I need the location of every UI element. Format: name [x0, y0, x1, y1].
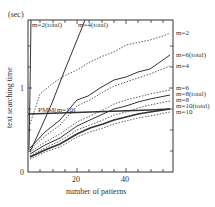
series-m4-total: [30, 20, 85, 152]
y-tick-1: 1: [20, 84, 24, 93]
x-axis-label: number of patterns: [66, 187, 126, 196]
series-m10: [30, 112, 170, 159]
label-pmm: PMM(m=10): [38, 106, 76, 114]
label-m4-total: m=4(total): [78, 21, 109, 29]
series-m2-total: [29, 20, 31, 150]
x-tick-40: 40: [121, 175, 129, 184]
plot-frame: [28, 20, 173, 172]
x-ticks: [40, 20, 163, 172]
label-right-m6-total: m=6(total): [176, 51, 207, 59]
label-right-m10: m=10: [176, 108, 193, 116]
label-right-m4: m=4: [176, 62, 189, 70]
label-right-m2: m=2: [176, 29, 189, 37]
line-chart: m=2(total) m=4(total) PMM(m=10) m=2 m=6(…: [0, 0, 215, 207]
y-axis-label: text searching time: [5, 67, 14, 128]
series-m6-total: [30, 55, 170, 148]
label-m2-total: m=2(total): [32, 21, 63, 29]
y-unit-label: (sec): [8, 10, 24, 19]
y-tick-0: 0: [20, 168, 24, 177]
x-tick-20: 20: [72, 175, 80, 184]
